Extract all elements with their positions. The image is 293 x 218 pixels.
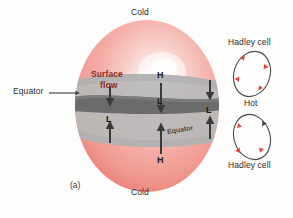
hadley-cell-top-loop [228, 47, 276, 102]
equator-left-label: Equator [13, 87, 43, 97]
hadley-cell-bottom-loop [228, 110, 276, 165]
cell-bottom-arrow-1 [237, 123, 242, 128]
cell-bottom-arrow-3 [259, 148, 264, 153]
figure-caption: (a) [70, 180, 80, 190]
climate-circulation-figure: Cold Cold Equator Surface flow Equator L… [0, 0, 293, 218]
figure-canvas [0, 0, 293, 218]
hadley-cell-top-label: Hadley cell [228, 38, 271, 48]
high-pressure-top-label: H [157, 70, 164, 80]
high-pressure-bottom-label: H [157, 155, 164, 165]
low-pressure-left-label: L [106, 114, 112, 124]
surface-flow-label-line1: Surface [91, 70, 123, 80]
hadley-cell-bottom [228, 110, 276, 165]
cell-top-arrow-2 [264, 64, 269, 69]
surface-flow-label-line2: flow [100, 81, 117, 91]
cell-top-arrow-4 [235, 77, 240, 82]
low-pressure-center-label: L [157, 96, 163, 106]
cold-top-label: Cold [131, 8, 149, 18]
cold-bottom-label: Cold [131, 188, 149, 198]
cell-top-arrow-3 [258, 85, 263, 90]
hadley-cell-bottom-label: Hadley cell [228, 161, 271, 171]
hadley-cell-top [228, 47, 276, 102]
hot-label: Hot [244, 99, 258, 109]
low-pressure-right-label: L [206, 105, 212, 115]
